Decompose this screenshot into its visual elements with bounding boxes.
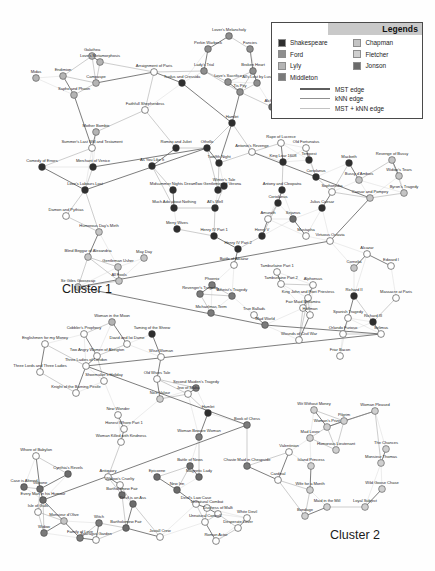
graph-node[interactable]	[345, 315, 352, 322]
graph-node[interactable]	[340, 331, 347, 338]
graph-node[interactable]	[290, 216, 297, 223]
graph-node[interactable]	[93, 537, 100, 544]
graph-node[interactable]	[250, 68, 257, 75]
graph-node[interactable]	[307, 487, 314, 494]
graph-node[interactable]	[130, 501, 137, 508]
graph-node[interactable]	[351, 265, 358, 272]
graph-node[interactable]	[193, 501, 200, 508]
graph-node[interactable]	[213, 538, 220, 545]
graph-node[interactable]	[302, 513, 309, 520]
graph-node[interactable]	[209, 282, 216, 289]
graph-node[interactable]	[89, 53, 96, 60]
graph-node[interactable]	[101, 378, 108, 385]
graph-node[interactable]	[389, 157, 396, 164]
graph-node[interactable]	[173, 145, 180, 152]
graph-node[interactable]	[63, 213, 70, 220]
graph-node[interactable]	[278, 281, 285, 288]
graph-node[interactable]	[85, 254, 92, 261]
graph-node[interactable]	[216, 160, 223, 167]
graph-node[interactable]	[275, 200, 282, 207]
graph-node[interactable]	[237, 89, 244, 96]
graph-node[interactable]	[313, 174, 320, 181]
graph-node[interactable]	[286, 449, 293, 456]
graph-node[interactable]	[97, 59, 104, 66]
graph-node[interactable]	[278, 140, 285, 147]
graph-node[interactable]	[121, 426, 128, 433]
graph-node[interactable]	[93, 129, 100, 136]
graph-node[interactable]	[60, 73, 67, 80]
graph-node[interactable]	[96, 520, 103, 527]
graph-node[interactable]	[109, 319, 116, 326]
graph-node[interactable]	[116, 278, 123, 285]
graph-node[interactable]	[311, 407, 318, 414]
graph-node[interactable]	[154, 376, 161, 383]
graph-node[interactable]	[221, 183, 228, 190]
graph-node[interactable]	[367, 195, 374, 202]
graph-node[interactable]	[77, 535, 84, 542]
graph-node[interactable]	[41, 530, 48, 537]
graph-node[interactable]	[40, 497, 47, 504]
graph-node[interactable]	[171, 205, 178, 212]
graph-node[interactable]	[197, 291, 204, 298]
graph-node[interactable]	[115, 264, 122, 271]
graph-node[interactable]	[307, 312, 314, 319]
graph-node[interactable]	[71, 92, 78, 99]
graph-node[interactable]	[337, 353, 344, 360]
graph-node[interactable]	[174, 226, 181, 233]
graph-node[interactable]	[303, 145, 310, 152]
graph-node[interactable]	[396, 173, 403, 180]
graph-node[interactable]	[93, 80, 100, 87]
graph-node[interactable]	[225, 79, 232, 86]
graph-node[interactable]	[254, 80, 261, 87]
graph-node[interactable]	[42, 341, 49, 348]
graph-node[interactable]	[231, 262, 238, 269]
graph-node[interactable]	[215, 187, 222, 194]
graph-node[interactable]	[235, 525, 242, 532]
graph-node[interactable]	[275, 477, 282, 484]
graph-node[interactable]	[119, 492, 126, 499]
graph-node[interactable]	[279, 187, 286, 194]
graph-node[interactable]	[170, 187, 177, 194]
graph-node[interactable]	[329, 189, 336, 196]
graph-node[interactable]	[196, 474, 203, 481]
graph-node[interactable]	[259, 233, 266, 240]
graph-node[interactable]	[205, 410, 212, 417]
graph-node[interactable]	[324, 504, 331, 511]
graph-node[interactable]	[229, 120, 236, 127]
graph-node[interactable]	[33, 75, 40, 82]
graph-node[interactable]	[174, 487, 181, 494]
graph-node[interactable]	[346, 160, 353, 167]
graph-node[interactable]	[300, 305, 307, 312]
graph-node[interactable]	[124, 341, 131, 348]
graph-node[interactable]	[202, 519, 209, 526]
graph-node[interactable]	[378, 460, 385, 467]
graph-node[interactable]	[229, 293, 236, 300]
graph-node[interactable]	[118, 439, 125, 446]
graph-node[interactable]	[158, 354, 165, 361]
graph-node[interactable]	[226, 33, 233, 40]
graph-node[interactable]	[142, 107, 149, 114]
graph-node[interactable]	[388, 263, 395, 270]
graph-node[interactable]	[378, 331, 385, 338]
graph-node[interactable]	[333, 447, 340, 454]
graph-node[interactable]	[215, 511, 222, 518]
graph-node[interactable]	[401, 190, 408, 197]
graph-node[interactable]	[362, 504, 369, 511]
graph-node[interactable]	[96, 229, 103, 236]
graph-node[interactable]	[193, 385, 200, 392]
graph-node[interactable]	[303, 233, 310, 240]
graph-node[interactable]	[310, 282, 317, 289]
graph-node[interactable]	[205, 46, 212, 53]
graph-node[interactable]	[90, 164, 97, 171]
graph-node[interactable]	[196, 434, 203, 441]
graph-node[interactable]	[351, 293, 358, 300]
graph-node[interactable]	[149, 163, 156, 170]
graph-node[interactable]	[280, 159, 287, 166]
graph-node[interactable]	[65, 471, 72, 478]
graph-node[interactable]	[296, 337, 303, 344]
graph-node[interactable]	[73, 390, 80, 397]
graph-node[interactable]	[82, 187, 89, 194]
graph-node[interactable]	[39, 164, 46, 171]
graph-node[interactable]	[94, 353, 101, 360]
graph-node[interactable]	[383, 446, 390, 453]
